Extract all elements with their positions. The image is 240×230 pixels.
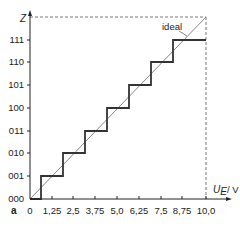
x-tick-label: 8,75 xyxy=(173,205,192,216)
panel-label: a xyxy=(11,205,17,216)
y-tick-label: 001 xyxy=(8,170,24,181)
y-tick-label: 010 xyxy=(8,147,24,158)
y-axis-arrow-icon xyxy=(28,10,32,16)
ideal-annotation: ideal xyxy=(162,21,182,32)
x-tick-label: 2,5 xyxy=(66,205,79,216)
y-tick-label: 110 xyxy=(9,56,24,67)
x-axis-arrow-icon xyxy=(226,197,232,201)
y-tick-label: 111 xyxy=(10,34,24,45)
x-tick-label: 6,25 xyxy=(130,205,149,216)
x-tick-label: 1,25 xyxy=(43,205,62,216)
y-tick-label: 100 xyxy=(8,102,24,113)
adc-transfer-chart: 000 001 010 011 100 101 110 111 0 1,25 2… xyxy=(0,0,240,230)
x-tick-label: 3,75 xyxy=(86,205,105,216)
x-tick-label: 10,0 xyxy=(197,205,216,216)
x-tick-label: 7,5 xyxy=(154,205,167,216)
ideal-leader-line xyxy=(179,31,187,36)
y-axis-label: Z xyxy=(19,13,27,24)
x-tick-labels: 0 1,25 2,5 3,75 5,0 6,25 7,5 8,75 10,0 xyxy=(27,205,215,216)
x-tick-label: 5,0 xyxy=(110,205,123,216)
staircase-line xyxy=(30,40,206,199)
y-tick-label: 011 xyxy=(9,125,24,136)
y-tick-labels: 000 001 010 011 100 101 110 111 xyxy=(8,34,24,204)
y-tick-label: 000 xyxy=(8,193,24,204)
y-tick-label: 101 xyxy=(8,79,24,90)
x-axis-label-unit: / V xyxy=(227,184,239,195)
x-axis-label: UE/ V xyxy=(213,184,239,197)
x-tick-label: 0 xyxy=(27,205,32,216)
